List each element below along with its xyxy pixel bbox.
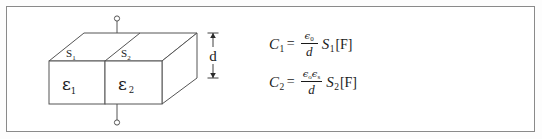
formula-c2-lhs: C2 (269, 74, 284, 91)
formula-c2-unit: [F] (340, 75, 357, 91)
bottom-terminal-node-icon (114, 120, 119, 125)
figure-border-frame: S1 S2 ε1 ε2 (6, 6, 535, 132)
formula-c2: C2 = ϵoϵs d S2 [F] (269, 69, 357, 96)
formula-c1-tail: S1 [F] (322, 36, 353, 53)
figure-root: S1 S2 ε1 ε2 (0, 0, 542, 139)
slab-front-face-left (49, 61, 105, 104)
formula-c2-tail: S2 [F] (326, 74, 357, 91)
formula-c2-denominator: d (306, 82, 317, 96)
formula-c1: C1 = ϵ0 d S1 [F] (269, 31, 353, 58)
formula-c1-area: S1 (322, 36, 334, 53)
formula-c1-lhs: C1 (269, 36, 284, 53)
thickness-label-d: d (209, 48, 217, 64)
formula-panel: C1 = ϵ0 d S1 [F] C2 = ϵoϵs d (257, 7, 536, 133)
slab-front-face-right (105, 61, 162, 104)
top-terminal-node-icon (114, 16, 119, 21)
formula-c1-unit: [F] (335, 37, 352, 53)
diagram-panel: S1 S2 ε1 ε2 (7, 7, 257, 133)
formula-c1-equals: = (287, 36, 295, 52)
formula-c2-numerator: ϵoϵs (301, 69, 322, 81)
formula-c1-numerator: ϵ0 (303, 31, 316, 43)
formula-c2-area: S2 (326, 74, 338, 91)
formula-c1-fraction: ϵ0 d (301, 31, 318, 58)
formula-c2-equals: = (287, 74, 295, 90)
thickness-arrow-down-icon (210, 73, 216, 78)
formula-c1-denominator: d (304, 44, 315, 58)
formula-c2-fraction: ϵoϵs d (301, 69, 322, 96)
thickness-arrow-up-icon (210, 33, 216, 38)
capacitor-diagram-svg: S1 S2 ε1 ε2 (7, 7, 257, 133)
